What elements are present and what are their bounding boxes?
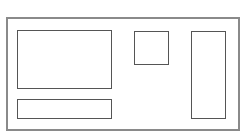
tall-column-block [191, 31, 226, 119]
large-panel-block [17, 30, 112, 89]
bottom-bar-block [17, 99, 112, 119]
square-block [134, 31, 169, 65]
